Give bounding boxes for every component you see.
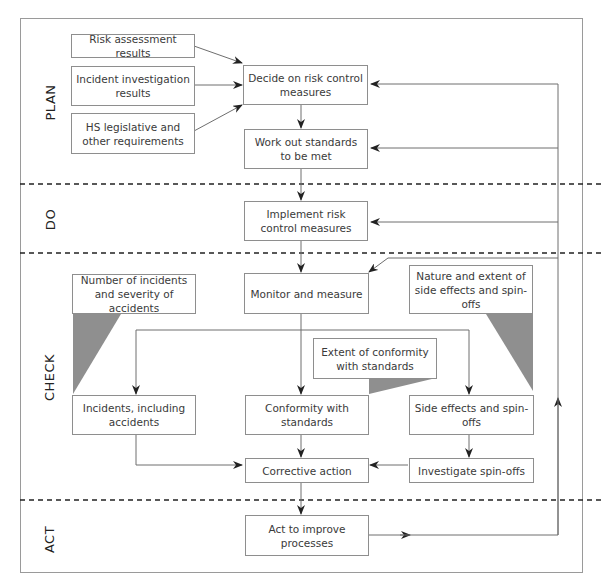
node-work-out-standards: Work out standards to be met — [244, 129, 368, 169]
node-number-incidents: Number of incidents and severity of acci… — [72, 274, 196, 314]
node-incident-investigation: Incident investigation results — [71, 66, 195, 106]
node-monitor-measure: Monitor and measure — [244, 273, 369, 314]
phase-label-act: ACT — [42, 526, 57, 553]
node-nature-side-effects: Nature and extent of side effects and sp… — [409, 265, 533, 314]
node-act-improve: Act to improve processes — [245, 515, 369, 556]
phase-label-do: DO — [43, 209, 58, 230]
phase-label-check: CHECK — [42, 354, 57, 401]
node-risk-assessment: Risk assessment results — [71, 34, 195, 58]
node-incidents-accidents: Incidents, including accidents — [72, 395, 196, 435]
node-investigate-spinoffs: Investigate spin-offs — [409, 458, 534, 483]
node-side-effects: Side effects and spin-offs — [409, 395, 534, 435]
node-decide-controls: Decide on risk control measures — [243, 65, 368, 105]
node-corrective-action: Corrective action — [245, 458, 369, 483]
node-hs-legislative: HS legislative and other requirements — [71, 113, 195, 154]
callout-wedges — [73, 314, 533, 394]
node-extent-conformity: Extent of conformity with standards — [313, 338, 437, 379]
node-implement-controls: Implement risk control measures — [244, 201, 368, 241]
phase-label-plan: PLAN — [43, 85, 58, 121]
node-conformity-standards: Conformity with standards — [245, 395, 369, 435]
